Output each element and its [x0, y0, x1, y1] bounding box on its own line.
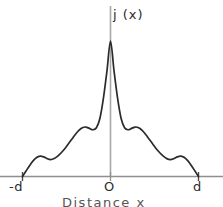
- x-axis-label: Distance x: [62, 196, 146, 207]
- x-tick-label-d: d: [193, 180, 202, 193]
- diffraction-intensity-figure: j (x) -d O d Distance x: [0, 0, 223, 207]
- x-tick-label-origin: O: [104, 180, 115, 193]
- y-axis-label: j (x): [113, 8, 144, 21]
- x-tick-label-minus-d: -d: [9, 180, 23, 193]
- plot-canvas: [0, 0, 223, 207]
